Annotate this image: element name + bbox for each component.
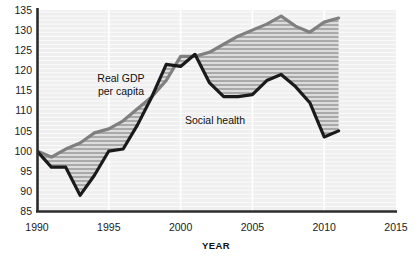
y-tick-95: 95 xyxy=(20,165,32,177)
y-tick-130: 130 xyxy=(14,24,32,36)
y-tick-125: 125 xyxy=(14,44,32,56)
x-tick-2000: 2000 xyxy=(169,221,193,233)
annotation-real-gdp-line2: per capita xyxy=(98,85,144,97)
x-axis-title: YEAR xyxy=(202,240,230,251)
y-tick-120: 120 xyxy=(14,64,32,76)
x-axis-tick-labels: 199019952000200520102015 xyxy=(25,221,408,233)
annotation-real-gdp-line1: Real GDP xyxy=(97,72,144,84)
chart-figure: 859095100105110115120125130135 199019952… xyxy=(0,0,420,261)
y-tick-100: 100 xyxy=(14,145,32,157)
x-tick-1990: 1990 xyxy=(25,221,49,233)
y-axis-tick-labels: 859095100105110115120125130135 xyxy=(14,4,32,218)
y-tick-115: 115 xyxy=(15,84,32,96)
y-tick-110: 110 xyxy=(15,104,32,116)
x-tick-2010: 2010 xyxy=(313,221,337,233)
annotation-social-health: Social health xyxy=(185,114,245,126)
y-tick-85: 85 xyxy=(20,205,32,217)
y-tick-105: 105 xyxy=(14,125,32,137)
y-tick-135: 135 xyxy=(14,4,32,16)
y-tick-90: 90 xyxy=(20,185,32,197)
x-tick-2005: 2005 xyxy=(241,221,265,233)
x-tick-2015: 2015 xyxy=(384,221,408,233)
x-tick-1995: 1995 xyxy=(97,221,121,233)
